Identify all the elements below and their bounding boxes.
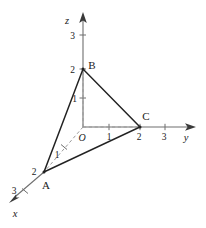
figure-container: z y x 3 2 1 1 2 3 1 2 3 O A B C xyxy=(0,0,206,228)
x-tick-3 xyxy=(22,189,28,194)
vertex-dot-c xyxy=(139,126,142,129)
point-label-b: B xyxy=(88,59,95,71)
x-tick-label-2: 2 xyxy=(32,167,37,177)
y-axis-label: y xyxy=(183,132,189,143)
x-tick-label-1: 1 xyxy=(55,150,60,160)
vertex-dot-b xyxy=(82,68,85,71)
z-tick-label-2: 2 xyxy=(70,65,75,75)
x-axis-line-outer xyxy=(16,172,44,196)
coordinate-diagram: z y x 3 2 1 1 2 3 1 2 3 O A B C xyxy=(0,0,206,228)
x-axis-label: x xyxy=(12,208,18,219)
x-axis-line-inner xyxy=(44,127,83,172)
x-tick-label-3: 3 xyxy=(12,186,17,196)
z-tick-label-1: 1 xyxy=(72,94,77,104)
z-tick-label-3: 3 xyxy=(70,31,75,41)
point-label-a: A xyxy=(42,179,50,191)
y-tick-label-3: 3 xyxy=(162,132,167,142)
point-label-c: C xyxy=(142,110,149,122)
z-axis-label: z xyxy=(64,15,69,26)
y-tick-label-2: 2 xyxy=(137,132,142,142)
origin-label: O xyxy=(78,132,85,143)
vertex-dot-a xyxy=(43,171,46,174)
y-tick-label-1: 1 xyxy=(107,132,112,142)
